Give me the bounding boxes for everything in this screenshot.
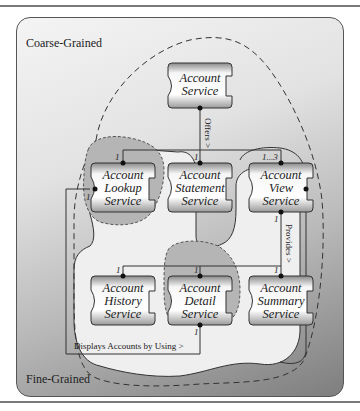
service-name-line: Account bbox=[180, 71, 221, 85]
service-name-line: Service bbox=[182, 307, 219, 321]
service-name-line: Account bbox=[261, 281, 302, 295]
account-view-service[interactable]: AccountViewService bbox=[249, 163, 313, 213]
service-name-line: Service bbox=[182, 84, 219, 98]
service-name-line: Detail bbox=[184, 294, 215, 308]
displays-label: Displays Accounts by Using > bbox=[74, 341, 184, 351]
service-name-line: View bbox=[269, 181, 293, 195]
service-name-line: Service bbox=[263, 194, 300, 208]
account-summary-service[interactable]: AccountSummaryService bbox=[249, 276, 313, 326]
offers-label: Offers > bbox=[203, 118, 213, 148]
fine-grained-label: Fine-Grained bbox=[26, 372, 90, 387]
service-name-line: Service bbox=[182, 194, 219, 208]
multiplicity-lookup-left: 1 bbox=[86, 192, 91, 202]
multiplicity-summary-top: 1 bbox=[274, 265, 279, 275]
service-name-line: Account bbox=[261, 168, 302, 182]
multiplicity-view-bottom: 1 bbox=[274, 214, 279, 224]
service-name-line: Lookup bbox=[104, 181, 142, 195]
account-history-service[interactable]: AccountHistoryService bbox=[91, 276, 155, 326]
multiplicity-history-top: 1 bbox=[116, 265, 121, 275]
account-lookup-service[interactable]: AccountLookupService bbox=[91, 163, 155, 213]
provides-label: Provides > bbox=[284, 224, 294, 263]
service-name-line: Service bbox=[105, 307, 142, 321]
coarse-grained-label: Coarse-Grained bbox=[26, 36, 102, 51]
service-name-line: Service bbox=[263, 307, 300, 321]
service-name-line: Account bbox=[103, 168, 144, 182]
service-name-line: History bbox=[104, 294, 142, 308]
service-name-line: Account bbox=[103, 281, 144, 295]
service-name-line: Statement bbox=[175, 181, 224, 195]
multiplicity-detail-bottom: 1 bbox=[194, 327, 199, 337]
account-service[interactable]: AccountService bbox=[168, 61, 232, 109]
account-statement-service[interactable]: AccountStatementService bbox=[168, 163, 232, 213]
service-name-line: Account bbox=[180, 168, 221, 182]
service-name-line: Service bbox=[105, 194, 142, 208]
service-name-line: Summary bbox=[257, 294, 304, 308]
account-detail-service[interactable]: AccountDetailService bbox=[168, 276, 232, 326]
multiplicity-detail-top: 1 bbox=[194, 265, 199, 275]
multiplicity-view-top: 1...3 bbox=[262, 152, 278, 162]
multiplicity-statement-top: 1 bbox=[194, 152, 199, 162]
service-name-line: Account bbox=[180, 281, 221, 295]
multiplicity-lookup-top: 1 bbox=[115, 152, 120, 162]
